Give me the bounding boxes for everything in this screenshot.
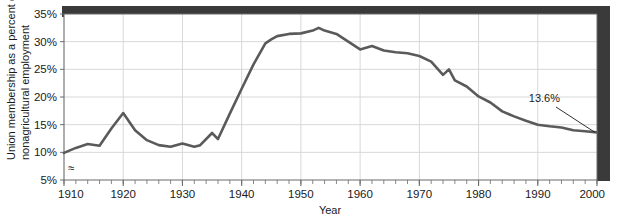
x-tick-label: 2000 [579, 188, 605, 200]
y-axis-tick-labels: 5%10%15%20%25%30%35% [34, 8, 57, 186]
chart-container: 5%10%15%20%25%30%35% 1910192019301940195… [0, 0, 619, 222]
x-tick-label: 1980 [466, 188, 492, 200]
x-tick-label: 1910 [58, 188, 84, 200]
y-axis-title-line-2: nonagricultural employment [19, 25, 31, 160]
line-chart: 5%10%15%20%25%30%35% 1910192019301940195… [0, 0, 619, 222]
y-tick-label: 25% [34, 63, 57, 75]
x-tick-label: 1940 [229, 188, 255, 200]
y-axis-title-line-1: Union membership as a percent of [5, 0, 17, 160]
x-tick-label: 1990 [525, 188, 551, 200]
y-tick-label: 10% [34, 146, 57, 158]
annotation-label: 13.6% [529, 92, 560, 104]
x-axis-minor-ticks [64, 180, 597, 184]
x-tick-label: 1950 [288, 188, 314, 200]
y-tick-label: 35% [34, 8, 57, 20]
y-axis-title: Union membership as a percent of nonagri… [5, 0, 31, 160]
x-axis-title: Year [319, 204, 342, 216]
x-tick-label: 1920 [110, 188, 136, 200]
x-tick-label: 1960 [347, 188, 373, 200]
y-tick-label: 5% [40, 174, 57, 186]
y-axis-break-symbol: ≈ [68, 162, 74, 174]
x-axis-tick-labels: 1910192019301940195019601970198019902000 [58, 188, 605, 200]
y-axis-ticks [60, 14, 64, 180]
y-tick-label: 20% [34, 91, 57, 103]
x-tick-label: 1930 [170, 188, 196, 200]
y-tick-label: 15% [34, 119, 57, 131]
x-tick-label: 1970 [407, 188, 433, 200]
y-tick-label: 30% [34, 36, 57, 48]
x-axis-ticks [64, 180, 597, 186]
